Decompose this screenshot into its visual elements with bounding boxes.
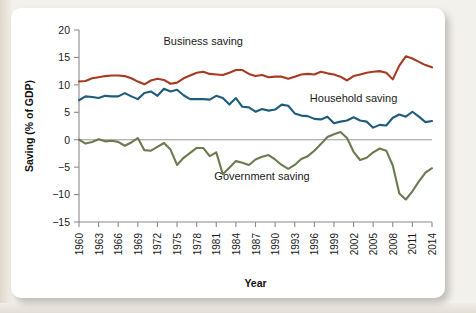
series-label-business-saving: Business saving [163, 35, 243, 47]
y-tick-label: 20 [58, 24, 70, 36]
x-tick-label: 1999 [329, 233, 340, 256]
x-tick-label: 1981 [211, 233, 222, 256]
x-axis-ticks: 1960196319661969197219751978198119841987… [74, 222, 438, 255]
x-tick-label: 1984 [231, 233, 242, 256]
figure-card: 20151050−5−10−15 19601963196619691972197… [11, 8, 445, 298]
x-tick-label: 1972 [152, 233, 163, 256]
page-bottom-edge-shadow [0, 303, 476, 313]
series-label-government-saving: Government saving [214, 170, 309, 182]
saving-percent-gdp-line-chart: 20151050−5−10−15 19601963196619691972197… [11, 8, 445, 298]
y-axis-ticks: 20151050−5−10−15 [52, 24, 79, 228]
y-tick-label: −10 [52, 188, 70, 200]
x-tick-label: 1975 [172, 233, 183, 256]
series-line-government-saving [79, 132, 432, 199]
x-tick-label: 1996 [309, 233, 320, 256]
x-tick-label: 2002 [349, 233, 360, 256]
x-tick-label: 1966 [113, 233, 124, 256]
y-axis-title: Saving (% of GDP) [23, 80, 35, 172]
x-tick-label: 1978 [192, 233, 203, 256]
series-label-household-saving: Household saving [310, 92, 397, 104]
x-tick-label: 2005 [368, 233, 379, 256]
y-tick-label: 0 [64, 134, 70, 146]
x-tick-label: 1969 [133, 233, 144, 256]
x-tick-label: 2008 [388, 233, 399, 256]
y-tick-label: 5 [64, 106, 70, 118]
x-tick-label: 1963 [94, 233, 105, 256]
chart-plot-area: 20151050−5−10−15 19601963196619691972197… [11, 8, 445, 298]
y-tick-label: 10 [58, 79, 70, 91]
y-tick-label: −5 [58, 161, 70, 173]
x-tick-label: 1993 [290, 233, 301, 256]
x-tick-label: 1990 [270, 233, 281, 256]
x-tick-label: 1987 [251, 233, 262, 256]
series-line-business-saving [79, 56, 432, 84]
y-tick-label: −15 [52, 216, 70, 228]
x-axis-title: Year [244, 277, 266, 289]
x-tick-label: 2011 [407, 233, 418, 255]
y-tick-label: 15 [58, 51, 70, 63]
x-tick-label: 1960 [74, 233, 85, 256]
x-tick-label: 2014 [427, 233, 438, 256]
